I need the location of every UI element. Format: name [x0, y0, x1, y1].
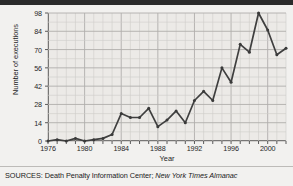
source-publication: New York Times Almanac	[155, 171, 237, 180]
x-tick-label-1996: 1996	[223, 144, 239, 153]
y-tick-label-28: 28	[26, 100, 42, 109]
chart-figure: Number of executions 014284256708498 197…	[0, 5, 293, 165]
x-tick-label-1992: 1992	[187, 144, 203, 153]
y-tick-label-98: 98	[26, 9, 42, 18]
x-axis-title: Year	[48, 154, 286, 163]
y-tick-label-56: 56	[26, 63, 42, 72]
y-tick-label-70: 70	[26, 45, 42, 54]
y-tick-label-42: 42	[26, 82, 42, 91]
y-tick-label-84: 84	[26, 27, 42, 36]
source-divider	[0, 166, 293, 167]
x-tick-label-1988: 1988	[150, 144, 166, 153]
x-tick-label-2000: 2000	[260, 144, 276, 153]
source-prefix: SOURCES: Death Penalty Information Cente…	[5, 171, 155, 180]
x-tick-label-1984: 1984	[113, 144, 129, 153]
y-axis-tick-labels: 014284256708498	[0, 13, 46, 141]
source-note: SOURCES: Death Penalty Information Cente…	[5, 171, 237, 180]
data-series-line	[48, 13, 286, 141]
plot-area	[48, 13, 286, 141]
y-tick-label-14: 14	[26, 118, 42, 127]
x-tick-label-1980: 1980	[77, 144, 93, 153]
x-tick-label-1976: 1976	[40, 144, 56, 153]
